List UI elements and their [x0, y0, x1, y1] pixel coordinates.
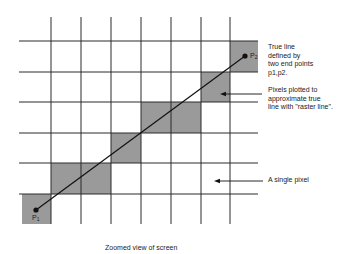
single-pixel-arrow — [214, 179, 263, 183]
shaded-pixel — [201, 72, 230, 102]
p2-point — [242, 53, 247, 58]
annotation-line: defined by — [268, 52, 313, 61]
diagram-caption: Zoomed view of screen — [105, 244, 177, 251]
annotation-line: True line — [268, 43, 313, 52]
shaded-pixel — [111, 133, 141, 163]
p1-point — [33, 207, 38, 212]
annotation-line: Pixels plotted to — [268, 86, 333, 95]
raster-line-diagram: P1 P2 — [0, 0, 342, 254]
annotation-line: line with "raster line". — [268, 103, 333, 112]
annotation-line: approximate true — [268, 95, 333, 104]
p2-label: P2 — [250, 52, 258, 60]
p1-label: P1 — [32, 214, 40, 222]
single-pixel-annotation: A single pixel — [268, 176, 309, 185]
true-line-annotation: True line defined by two end points p1,p… — [268, 43, 313, 77]
annotation-line: two end points — [268, 60, 313, 69]
raster-annotation: Pixels plotted to approximate true line … — [268, 86, 333, 112]
annotation-line: p1,p2. — [268, 69, 313, 78]
annotation-line: A single pixel — [268, 176, 309, 185]
